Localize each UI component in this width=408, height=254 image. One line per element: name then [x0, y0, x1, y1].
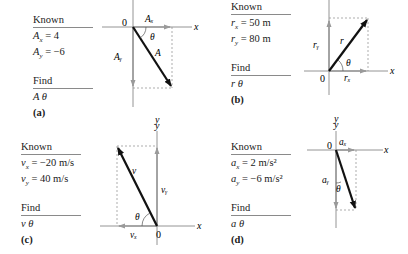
x-axis-label: x — [383, 144, 389, 155]
diagram-b: x y 0 θ r rₓ rᵧ — [304, 0, 395, 124]
y-component-label: vᵧ — [161, 185, 168, 195]
angle-arc — [142, 213, 150, 226]
y-component-label: aᵧ — [322, 175, 330, 185]
x-component-label: Aₓ — [144, 14, 154, 24]
origin-label: 0 — [320, 73, 325, 84]
x-component-label: rₓ — [344, 73, 351, 83]
diagram-c: x y 0 θ v vₓ vᵧ — [100, 120, 202, 245]
origin-label: 0 — [122, 17, 127, 28]
origin-label: 0 — [156, 229, 161, 240]
resultant-label: r — [340, 36, 344, 46]
x-component-label: aₓ — [339, 137, 347, 147]
vector-diagrams: x y 0 θ A Aₓ Aᵧ x y 0 θ r rₓ rᵧ x y — [0, 0, 408, 254]
x-axis-label: x — [193, 21, 199, 32]
x-axis-label: x — [196, 220, 202, 231]
diagram-a: x y 0 θ A Aₓ Aᵧ — [102, 0, 199, 125]
y-component-label: Aᵧ — [113, 52, 123, 62]
resultant-label: A — [154, 48, 161, 58]
angle-label: θ — [150, 32, 155, 42]
origin-label: 0 — [327, 140, 332, 151]
angle-arc — [140, 27, 146, 38]
angle-label: θ — [346, 58, 351, 68]
x-component-label: vₓ — [130, 230, 137, 240]
x-axis-label: x — [389, 65, 395, 76]
resultant-label: v — [132, 166, 137, 176]
y-axis-label: y — [154, 120, 160, 131]
y-component-label: rᵧ — [313, 40, 320, 50]
diagram-d: x y 0 θ aₓ aᵧ — [307, 119, 389, 228]
y-axis-label: y — [333, 119, 339, 130]
angle-arc — [338, 60, 343, 71]
resultant-vector — [336, 150, 355, 208]
angle-label: θ — [135, 212, 140, 222]
angle-label: θ — [336, 184, 341, 194]
